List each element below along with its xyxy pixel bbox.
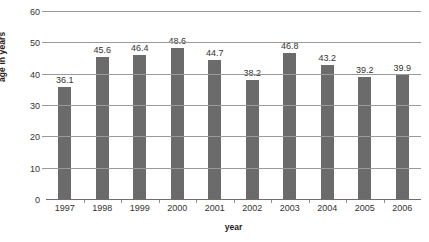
y-tick-mark [42, 105, 46, 106]
bar-slot: 38.2 [234, 12, 272, 200]
x-tick-label: 2000 [159, 203, 197, 213]
bar-slot: 48.6 [159, 12, 197, 200]
x-tick-label: 2004 [309, 203, 347, 213]
bar [58, 87, 71, 200]
y-tick-label: 30 [18, 101, 40, 111]
y-axis-title: age in years [0, 0, 7, 82]
bar [283, 53, 296, 200]
bar-value-label: 48.6 [159, 36, 197, 46]
x-tick-label: 2002 [234, 203, 272, 213]
y-tick-mark [42, 136, 46, 137]
bar-series: 36.145.646.448.644.738.246.843.239.239.9 [46, 12, 421, 200]
gridline [46, 74, 421, 75]
x-tick-label: 2003 [271, 203, 309, 213]
gridline [46, 42, 421, 43]
x-axis-title: year [46, 222, 421, 232]
bar-slot: 39.2 [346, 12, 384, 200]
x-tick-label: 2001 [196, 203, 234, 213]
bar [396, 75, 409, 200]
bar [171, 48, 184, 200]
bar-slot: 36.1 [46, 12, 84, 200]
bar-slot: 44.7 [196, 12, 234, 200]
bar-value-label: 46.4 [121, 43, 159, 53]
x-tick-label: 1997 [46, 203, 84, 213]
y-tick-label: 50 [18, 38, 40, 48]
y-tick-label: 10 [18, 164, 40, 174]
bar-slot: 39.9 [384, 12, 422, 200]
y-axis-tick-labels: 0102030405060 [16, 12, 40, 200]
bar-value-label: 43.2 [309, 53, 347, 63]
bar-value-label: 45.6 [84, 45, 122, 55]
bar [133, 55, 146, 200]
bar-value-label: 44.7 [196, 48, 234, 58]
y-tick-label: 60 [18, 7, 40, 17]
gridline [46, 136, 421, 137]
x-tick-label: 2005 [346, 203, 384, 213]
gridline [46, 168, 421, 169]
y-tick-mark [42, 74, 46, 75]
plot-area: 36.145.646.448.644.738.246.843.239.239.9 [46, 12, 421, 200]
gridline [46, 105, 421, 106]
bar-slot: 46.4 [121, 12, 159, 200]
y-tick-label: 40 [18, 70, 40, 80]
y-tick-mark [42, 168, 46, 169]
x-tick-label: 1998 [84, 203, 122, 213]
x-axis-baseline [46, 199, 421, 200]
bar-slot: 43.2 [309, 12, 347, 200]
bar [358, 77, 371, 200]
x-tick-label: 1999 [121, 203, 159, 213]
bar-slot: 46.8 [271, 12, 309, 200]
bar [246, 80, 259, 200]
gridline [46, 11, 421, 12]
y-tick-label: 20 [18, 132, 40, 142]
y-tick-mark [42, 42, 46, 43]
bar-value-label: 36.1 [46, 75, 84, 85]
bar [208, 60, 221, 200]
y-tick-mark [42, 11, 46, 12]
bar [321, 65, 334, 200]
bar-value-label: 39.9 [384, 63, 422, 73]
y-tick-label: 0 [18, 195, 40, 205]
bar-chart: age in years 0102030405060 36.145.646.44… [0, 0, 429, 242]
bar-slot: 45.6 [84, 12, 122, 200]
x-axis-tick-labels: 1997199819992000200120022003200420052006 [46, 203, 421, 213]
bar [96, 57, 109, 200]
x-tick-label: 2006 [384, 203, 422, 213]
